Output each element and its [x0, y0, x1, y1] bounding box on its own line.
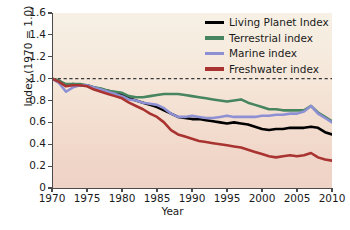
x-tick-label: 2005 — [277, 193, 317, 204]
y-tick-label: 0.6 — [6, 116, 46, 127]
legend-item: Terrestrial index — [205, 32, 329, 45]
x-tick-label: 1995 — [207, 193, 247, 204]
legend-item: Marine index — [205, 47, 329, 60]
y-tick-mark — [48, 144, 52, 145]
legend-color-swatch — [205, 21, 224, 24]
y-tick-mark — [48, 100, 52, 101]
legend-label: Terrestrial index — [229, 33, 313, 44]
x-tick-label: 1975 — [67, 193, 107, 204]
y-tick-label: 1.4 — [6, 29, 46, 40]
y-tick-mark — [48, 56, 52, 57]
x-tick-label: 1980 — [102, 193, 142, 204]
legend-color-swatch — [205, 52, 224, 55]
y-tick-mark — [48, 34, 52, 35]
y-tick-label: 1.0 — [6, 73, 46, 84]
x-tick-label: 2000 — [242, 193, 282, 204]
y-tick-label: 0 — [6, 182, 46, 193]
y-tick-label: 0.2 — [6, 160, 46, 171]
legend-color-swatch — [205, 67, 224, 70]
legend-label: Freshwater index — [229, 64, 319, 75]
series-line-marine-index — [52, 79, 332, 123]
x-axis-title: Year — [0, 205, 345, 217]
chart-legend: Living Planet IndexTerrestrial indexMari… — [205, 16, 329, 76]
legend-item: Freshwater index — [205, 63, 329, 76]
legend-label: Marine index — [229, 48, 297, 59]
y-tick-label: 0.8 — [6, 95, 46, 106]
legend-item: Living Planet Index — [205, 16, 329, 29]
y-tick-label: 0.4 — [6, 138, 46, 149]
x-tick-label: 1990 — [172, 193, 212, 204]
x-tick-label: 1985 — [137, 193, 177, 204]
x-tick-label: 2010 — [312, 193, 350, 204]
legend-label: Living Planet Index — [229, 17, 329, 28]
y-tick-mark — [48, 166, 52, 167]
legend-color-swatch — [205, 36, 224, 39]
y-tick-mark — [48, 12, 52, 13]
y-tick-label: 1.2 — [6, 51, 46, 62]
y-tick-mark — [48, 78, 52, 79]
y-tick-mark — [48, 122, 52, 123]
y-axis-line — [52, 13, 53, 188]
y-tick-label: 1.6 — [6, 7, 46, 18]
x-tick-label: 1970 — [32, 193, 72, 204]
